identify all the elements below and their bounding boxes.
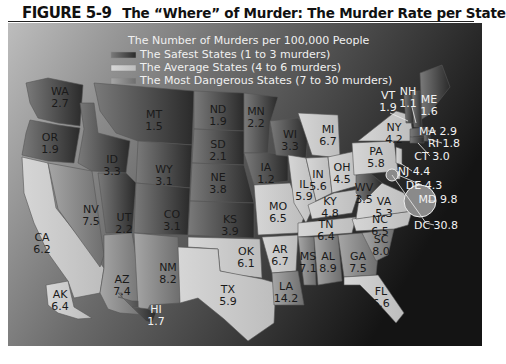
state-label-ny-value: 4.2 [385, 133, 403, 146]
state-label-pa-value: 5.8 [367, 157, 385, 170]
state-label-mo-value: 6.5 [269, 212, 287, 225]
figure-caption: The “Where” of Murder: The Murder Rate p… [122, 5, 506, 21]
legend-swatch-average [111, 65, 136, 71]
legend-label-average: The Average States (4 to 6 murders) [139, 61, 341, 74]
state-label-nj: NJ 4.4 [398, 165, 430, 178]
state-label-nc-value: 6.5 [371, 225, 389, 238]
state-label-ok-value: 6.1 [237, 257, 255, 270]
state-label-or-value: 1.9 [41, 143, 59, 156]
state-label-ut-value: 2.2 [115, 223, 133, 236]
state-label-ar-value: 6.7 [271, 255, 289, 268]
state-label-dc: DC 30.8 [414, 219, 458, 232]
state-label-wv-value: 3.5 [355, 193, 373, 206]
state-label-fl-value: 6.6 [372, 297, 390, 310]
title-rule [8, 21, 474, 22]
state-label-id-value: 3.3 [103, 165, 121, 178]
state-label-ca-value: 6.2 [33, 243, 51, 256]
legend-swatch-safe [111, 52, 136, 58]
state-label-ak-value: 6.4 [51, 300, 69, 313]
state-label-me-value: 1.6 [420, 105, 438, 118]
state-label-in-value: 5.6 [309, 180, 327, 193]
state-label-mn-value: 2.2 [247, 117, 265, 130]
state-label-nh-value: 1.1 [399, 97, 417, 110]
state-label-wy-value: 3.1 [155, 175, 173, 188]
state-shape-co [134, 183, 190, 235]
state-label-mi-value: 6.7 [319, 135, 337, 148]
state-label-va-value: 5.3 [375, 207, 393, 220]
us-map: The Number of Murders per 100,000 People… [8, 23, 482, 346]
state-shape-nj [396, 147, 402, 165]
legend-swatch-dangerous [111, 78, 136, 84]
state-label-mt-value: 1.5 [145, 120, 163, 133]
state-label-sd-value: 2.1 [209, 150, 227, 163]
legend-title: The Number of Murders per 100,000 People [127, 34, 370, 47]
state-label-tx-value: 5.9 [219, 295, 237, 308]
figure-number: FIGURE 5-9 [22, 4, 111, 22]
map-panel: The Number of Murders per 100,000 People… [8, 23, 482, 346]
state-label-ga-value: 7.5 [349, 262, 367, 275]
state-label-wi-value: 3.3 [281, 140, 299, 153]
state-label-md: MD 9.8 [419, 193, 458, 206]
state-label-ri: RI 1.8 [428, 137, 460, 150]
state-label-az-value: 7.4 [113, 285, 131, 298]
state-label-co-value: 3.1 [163, 220, 181, 233]
state-label-la-value: 14.2 [274, 292, 299, 305]
state-label-wa-value: 2.7 [51, 97, 69, 110]
state-label-ct: CT 3.0 [414, 150, 449, 163]
state-label-sc-value: 8.0 [372, 245, 390, 258]
state-label-ks-value: 3.9 [221, 225, 239, 238]
state-label-nm-value: 8.2 [159, 273, 177, 286]
state-label-hi-value: 1.7 [147, 315, 165, 328]
state-label-nv-value: 7.5 [82, 215, 100, 228]
state-label-ia-value: 1.2 [257, 173, 275, 186]
state-label-tn-value: 6.4 [317, 230, 335, 243]
state-label-ne-value: 3.8 [209, 183, 227, 196]
state-label-vt-value: 1.9 [379, 101, 397, 114]
state-label-ms-value: 7.1 [299, 262, 317, 275]
legend-label-dangerous: The Most Dangerous States (7 to 30 murde… [139, 74, 392, 87]
state-label-nd-value: 1.9 [209, 115, 227, 128]
state-label-al-value: 8.9 [319, 262, 337, 275]
state-label-de: DE 4.3 [406, 179, 442, 192]
legend-label-safe: The Safest States (1 to 3 murders) [139, 48, 330, 61]
state-label-oh-value: 4.5 [333, 173, 351, 186]
